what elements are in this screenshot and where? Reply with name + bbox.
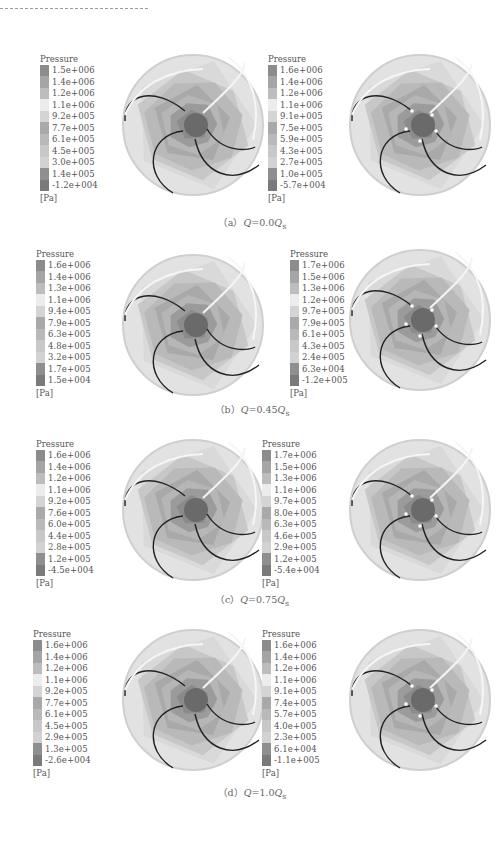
legend-row: 1.6e+006	[262, 640, 320, 652]
legend-swatch	[262, 663, 271, 675]
caption-eq: =0.75	[248, 594, 277, 605]
legend-row: 6.1e+004	[262, 743, 320, 755]
caption-c: （c）Q=0.75Qs	[0, 592, 504, 608]
caption-sub: s	[282, 222, 286, 231]
legend-row: 5.7e+005	[262, 709, 320, 721]
legend-row: 1.1e+006	[262, 674, 320, 686]
pressure-legend: Pressure 1.6e+006 1.4e+006 1.2e+006 1.1e…	[262, 630, 320, 778]
legend-value: 4.0e+005	[274, 722, 317, 731]
legend-swatch	[262, 720, 271, 732]
caption-a: （a）Q=0.0Qs	[0, 215, 504, 231]
legend-value: 1.1e+006	[274, 676, 317, 685]
caption-sub: s	[285, 409, 289, 418]
legend-value: 1.6e+006	[274, 641, 317, 650]
caption-label: （a）	[218, 217, 244, 228]
legend-row: -1.1e+005	[262, 755, 320, 767]
legend-swatch	[262, 709, 271, 721]
legend-value: 6.1e+004	[274, 745, 317, 754]
caption-d: （d）Q=1.0Qs	[0, 785, 504, 801]
caption-q: Q	[240, 594, 248, 605]
caption-label: （d）	[218, 787, 244, 798]
caption-eq: =0.0	[251, 217, 274, 228]
legend-value: 1.2e+006	[274, 664, 317, 673]
legend-value: 1.4e+006	[274, 653, 317, 662]
legend-title: Pressure	[262, 630, 320, 639]
caption-qs: Q	[277, 594, 285, 605]
legend-row: 7.4e+005	[262, 697, 320, 709]
legend-row: 2.3e+005	[262, 732, 320, 744]
legend-row: 9.1e+005	[262, 686, 320, 698]
caption-b: （b）Q=0.45Qs	[0, 402, 504, 418]
legend-value: 2.3e+005	[274, 733, 317, 742]
legend-value: 7.4e+005	[274, 699, 317, 708]
impeller-contour-7	[0, 0, 504, 845]
legend-value: -1.1e+005	[274, 756, 320, 765]
legend-value: 9.1e+005	[274, 687, 317, 696]
legend-swatch	[262, 732, 271, 744]
legend-swatch	[262, 686, 271, 698]
legend-swatch	[262, 651, 271, 663]
legend-row: 4.0e+005	[262, 720, 320, 732]
legend-swatch	[262, 674, 271, 686]
caption-eq: =1.0	[251, 787, 274, 798]
legend-row: 1.2e+006	[262, 663, 320, 675]
legend-swatch	[262, 640, 271, 652]
legend-row: 1.4e+006	[262, 651, 320, 663]
caption-label: （b）	[215, 404, 241, 415]
caption-sub: s	[285, 599, 289, 608]
caption-label: （c）	[215, 594, 240, 605]
legend-swatch	[262, 697, 271, 709]
legend-value: 5.7e+005	[274, 710, 317, 719]
legend-unit: [Pa]	[262, 769, 320, 778]
caption-qs: Q	[274, 217, 282, 228]
caption-eq: =0.45	[248, 404, 277, 415]
caption-sub: s	[282, 792, 286, 801]
legend-swatch	[262, 755, 271, 767]
legend-swatch	[262, 743, 271, 755]
